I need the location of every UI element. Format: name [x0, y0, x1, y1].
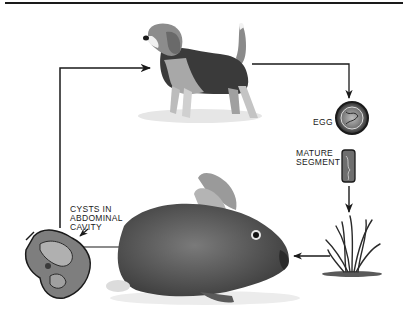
cysts-label: CYSTS IN ABDOMINAL CAVITY — [70, 205, 123, 232]
dog-illustration — [138, 23, 262, 123]
cysts-organ-illustration — [26, 230, 91, 298]
cysts-label-line3: CAVITY — [70, 223, 123, 232]
mature-segment-label: MATURE SEGMENT — [296, 149, 340, 167]
arrow-dog-to-egg — [252, 64, 349, 98]
grass-illustration — [322, 216, 382, 277]
egg-label: EGG — [313, 118, 333, 127]
rabbit-illustration — [106, 173, 300, 305]
mature-segment-label-line2: SEGMENT — [296, 158, 340, 167]
egg-illustration — [336, 102, 368, 134]
mature-segment-illustration — [342, 150, 355, 182]
life-cycle-diagram — [0, 0, 406, 327]
